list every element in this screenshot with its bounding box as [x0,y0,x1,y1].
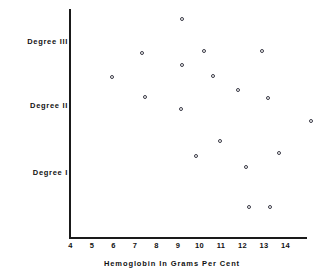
data-point-marker [268,205,272,209]
x-axis-tick-labels: 4567891011121314 [0,241,326,253]
data-point-marker [277,151,281,155]
data-point-marker [194,154,198,158]
x-tick-label: 5 [82,241,102,250]
data-point-marker [211,74,215,78]
data-point-marker [143,95,147,99]
x-axis-title: Hemoglobin In Grams Per Cent [0,259,326,268]
x-tick-label: 11 [211,241,231,250]
x-tick-label: 6 [104,241,124,250]
y-axis-label-degree-i: Degree I [33,168,68,177]
data-point-marker [180,63,184,67]
y-axis-label-degree-ii: Degree II [30,101,68,110]
data-point-marker [266,96,270,100]
data-point-marker [218,139,222,143]
x-tick-label: 9 [168,241,188,250]
y-axis-label-degree-iii: Degree III [27,37,68,46]
data-point-marker [260,49,264,53]
x-tick-label: 8 [147,241,167,250]
x-axis-line [69,237,307,239]
x-tick-label: 4 [61,241,81,250]
data-point-marker [180,17,184,21]
data-point-marker [179,107,183,111]
data-point-marker [140,51,144,55]
data-point-marker [309,119,313,123]
y-axis-line [69,9,71,239]
data-point-marker [110,75,114,79]
x-tick-label: 12 [233,241,253,250]
x-tick-label: 14 [276,241,296,250]
data-point-marker [247,205,251,209]
x-tick-label: 7 [125,241,145,250]
x-tick-label: 10 [190,241,210,250]
data-point-marker [236,88,240,92]
scatter-chart-figure: Degree III Degree II Degree I 4567891011… [0,0,326,276]
data-point-marker [202,49,206,53]
data-point-marker [244,165,248,169]
x-tick-label: 13 [254,241,274,250]
